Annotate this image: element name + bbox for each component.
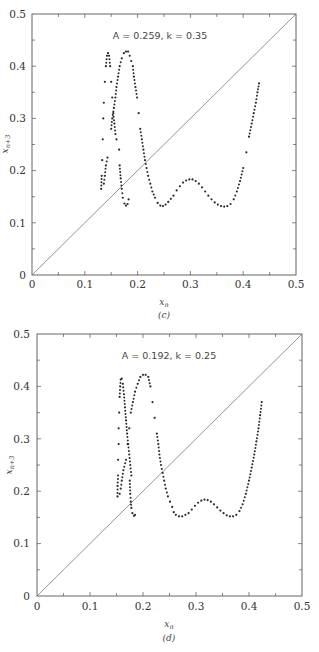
data-point — [128, 453, 130, 455]
data-point — [138, 379, 140, 381]
data-point — [245, 493, 247, 495]
data-point — [133, 398, 135, 400]
svg-text:0.1: 0.1 — [13, 537, 30, 549]
data-point — [259, 414, 261, 416]
data-point — [149, 385, 151, 387]
data-point — [123, 390, 125, 392]
data-point — [127, 440, 129, 442]
data-point — [248, 480, 250, 482]
data-point — [197, 502, 199, 504]
data-point — [124, 403, 126, 405]
data-point — [121, 476, 123, 478]
data-point — [123, 466, 125, 468]
data-point — [253, 457, 255, 459]
data-point — [159, 461, 161, 463]
data-point — [167, 495, 169, 497]
data-point — [163, 480, 165, 482]
data-point — [130, 504, 132, 506]
data-point — [130, 471, 132, 473]
data-point — [259, 418, 261, 420]
data-point — [147, 376, 149, 378]
data-point — [260, 411, 262, 413]
data-point — [125, 423, 127, 425]
data-point — [226, 514, 228, 516]
data-point — [156, 436, 158, 438]
data-point — [118, 412, 120, 414]
data-point — [130, 507, 132, 509]
data-point — [122, 469, 124, 471]
data-point — [118, 443, 120, 445]
data-point — [131, 408, 133, 410]
plot-d: 0 0.1 0.2 0.3 0.4 0.5 0 0.1 0.2 0.3 0.4 … — [0, 0, 319, 652]
data-point — [249, 476, 251, 478]
data-point — [219, 509, 221, 511]
data-point — [127, 443, 129, 445]
data-point — [216, 506, 218, 508]
data-point — [257, 431, 259, 433]
data-point — [260, 408, 262, 410]
plot-caption: (d) — [163, 633, 176, 643]
data-point — [156, 432, 158, 434]
data-point — [256, 434, 258, 436]
data-point — [125, 416, 127, 418]
data-point — [131, 405, 133, 407]
data-point — [129, 483, 131, 485]
data-point — [187, 512, 189, 514]
data-point — [116, 485, 118, 487]
data-point — [254, 450, 256, 452]
data-point — [126, 436, 128, 438]
data-point — [161, 468, 163, 470]
data-point — [129, 486, 131, 488]
data-point — [243, 500, 245, 502]
data-point — [181, 515, 183, 517]
data-point — [154, 417, 156, 419]
data-point — [125, 419, 127, 421]
data-point — [130, 467, 132, 469]
data-point — [222, 512, 224, 514]
data-point — [119, 385, 121, 387]
data-point — [124, 410, 126, 412]
data-point — [122, 383, 124, 385]
data-point — [130, 497, 132, 499]
data-point — [158, 450, 160, 452]
data-point — [122, 473, 124, 475]
data-point — [166, 492, 168, 494]
data-point — [252, 460, 254, 462]
data-point — [124, 462, 126, 464]
data-point — [232, 515, 234, 517]
data-point — [123, 397, 125, 399]
data-point — [116, 495, 118, 497]
x-tick-labels: 0 0.1 0.2 0.3 0.4 0.5 — [34, 600, 311, 612]
data-point — [148, 379, 150, 381]
data-point — [250, 470, 252, 472]
data-point — [253, 453, 255, 455]
data-point — [258, 421, 260, 423]
data-point — [126, 432, 128, 434]
data-point — [135, 387, 137, 389]
data-point — [162, 472, 164, 474]
data-point — [139, 376, 141, 378]
data-point — [246, 490, 248, 492]
data-point — [128, 427, 130, 429]
data-point — [254, 447, 256, 449]
data-point — [119, 389, 121, 391]
data-point — [123, 393, 125, 395]
data-point — [157, 443, 159, 445]
data-point — [117, 481, 119, 483]
identity-line — [37, 334, 302, 596]
svg-text:0.4: 0.4 — [13, 380, 30, 392]
data-point — [256, 437, 258, 439]
data-point — [164, 484, 166, 486]
data-point — [251, 463, 253, 465]
data-point — [134, 514, 136, 516]
data-point — [119, 493, 121, 495]
svg-text:0.3: 0.3 — [13, 433, 30, 445]
svg-text:0.5: 0.5 — [294, 600, 311, 612]
data-point — [119, 392, 121, 394]
plot-title: A = 0.192, k = 0.25 — [122, 350, 216, 361]
data-point — [119, 382, 121, 384]
data-point — [246, 486, 248, 488]
data-point — [260, 404, 262, 406]
data-point — [129, 464, 131, 466]
data-point — [165, 487, 167, 489]
